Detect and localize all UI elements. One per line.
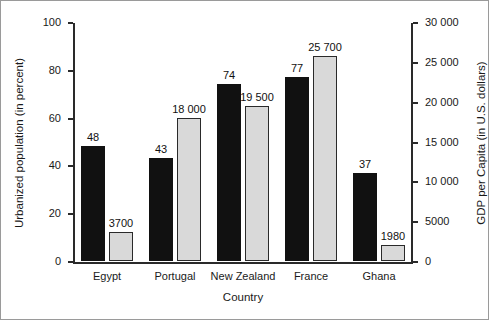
category-label-new-zealand: New Zealand	[209, 270, 277, 282]
bar-group: 7725 700	[277, 22, 345, 261]
left-tick-mark	[68, 261, 73, 263]
bar-value-label: 48	[67, 132, 119, 143]
left-axis-title: Urbanized population (in percent)	[13, 23, 25, 263]
bar-value-label: 74	[203, 70, 255, 81]
left-tick-label: 60	[49, 113, 61, 124]
chart-figure: 020406080100 0500010 00015 00020 00025 0…	[0, 0, 489, 320]
bar-gdp	[177, 118, 201, 261]
right-tick-mark	[413, 102, 418, 104]
left-tick-label: 40	[49, 160, 61, 171]
right-tick-mark	[413, 142, 418, 144]
category-label-ghana: Ghana	[345, 270, 413, 282]
right-axis-title: GDP per Capita (in U.S. dollars)	[475, 23, 487, 263]
bar-group: 7419 500	[209, 22, 277, 261]
bar-urbanization	[217, 84, 241, 261]
x-axis-line	[73, 262, 413, 264]
right-tick-label: 25 000	[425, 57, 459, 68]
category-label-portugal: Portugal	[141, 270, 209, 282]
x-axis-title: Country	[73, 291, 413, 303]
left-tick-label: 0	[55, 256, 61, 267]
left-tick-label: 80	[49, 65, 61, 76]
bar-gdp	[109, 232, 133, 261]
bar-value-label: 1980	[367, 231, 419, 242]
bar-value-label: 18 000	[163, 104, 215, 115]
bar-gdp	[245, 106, 269, 261]
bar-group: 371980	[345, 22, 413, 261]
right-tick-mark	[413, 181, 418, 183]
left-tick-label: 20	[49, 208, 61, 219]
bar-group: 4318 000	[141, 22, 209, 261]
bar-value-label: 25 700	[299, 42, 351, 53]
plot-area: 020406080100 0500010 00015 00020 00025 0…	[73, 23, 413, 263]
bar-gdp	[381, 245, 405, 261]
bar-value-label: 37	[339, 159, 391, 170]
category-label-france: France	[277, 270, 345, 282]
bar-value-label: 3700	[95, 218, 147, 229]
right-tick-mark	[413, 261, 418, 263]
right-tick-mark	[413, 22, 418, 24]
right-tick-label: 15 000	[425, 137, 459, 148]
left-tick-label: 100	[43, 17, 61, 28]
bar-gdp	[313, 56, 337, 261]
right-tick-label: 0	[425, 256, 431, 267]
bar-value-label: 19 500	[231, 92, 283, 103]
bar-urbanization	[81, 146, 105, 261]
right-tick-mark	[413, 221, 418, 223]
right-tick-label: 20 000	[425, 97, 459, 108]
category-label-egypt: Egypt	[73, 270, 141, 282]
bar-urbanization	[353, 173, 377, 261]
right-tick-label: 30 000	[425, 17, 459, 28]
right-tick-label: 10 000	[425, 176, 459, 187]
bar-urbanization	[285, 77, 309, 261]
bar-group: 483700	[73, 22, 141, 261]
bar-urbanization	[149, 158, 173, 261]
right-tick-mark	[413, 62, 418, 64]
right-tick-label: 5000	[425, 216, 449, 227]
